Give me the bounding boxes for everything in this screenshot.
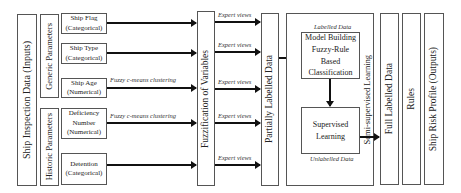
param-type: (Categorical) [66, 24, 103, 33]
full-labelled-label: Full Labelled Data [385, 63, 395, 134]
param-type: (Categorical) [66, 54, 103, 63]
expert-label-1: Expert views [218, 11, 251, 18]
generic-parameters-box: Generic Parameters [40, 14, 59, 98]
ship-inspection-data-box: Ship Inspection Data (Inputs) [17, 14, 37, 186]
partially-labelled-label: Partially Labelled Data [265, 55, 275, 143]
param-ship-flag: Ship Flag (Categorical) [61, 13, 107, 34]
param-name: Ship Flag [70, 14, 97, 23]
arrow-detention [107, 164, 196, 166]
ship-risk-profile-label: Ship Risk Profile (Outputs) [429, 47, 439, 151]
expert-label-5: Expert views [218, 154, 251, 161]
param-ship-type: Ship Type (Categorical) [61, 43, 107, 64]
expert-label-4: Expert views [218, 112, 251, 119]
generic-parameters-label: Generic Parameters [45, 23, 54, 90]
historic-parameters-label: Historic Parameters [45, 113, 54, 180]
supervised-line-2: Learning [316, 131, 345, 143]
arrow-model-to-supervised [329, 79, 331, 106]
ship-risk-profile-box: Ship Risk Profile (Outputs) [424, 13, 444, 185]
arrow-deficiency [107, 122, 196, 124]
labelled-data-caption: Labelled Data [314, 23, 351, 30]
fuzzification-label: Fuzzification of Variables [201, 50, 211, 148]
arrow-ship-age [107, 87, 196, 89]
param-deficiency-number: Deficiency Number (Numerical) [61, 108, 107, 139]
supervised-learning-box: Supervised Learning [301, 107, 360, 154]
model-building-box: Model Building Fuzzy-Rule Based Classifi… [301, 32, 360, 79]
rules-label: Rules [407, 88, 417, 110]
param-name: Ship Type [70, 44, 98, 53]
historic-parameters-box: Historic Parameters [40, 108, 59, 186]
arrow-ship-flag [107, 22, 196, 24]
unlabelled-data-caption: Unlabelled Data [310, 155, 354, 162]
model-line-2: Fuzzy-Rule [312, 44, 349, 56]
expert-label-2: Expert views [218, 41, 251, 48]
param-type: (Numerical) [67, 88, 101, 97]
semi-supervised-label: Semi-supervised Learning [363, 55, 372, 144]
ship-inspection-data-label: Ship Inspection Data (Inputs) [22, 41, 32, 159]
arrow-expert-5 [215, 164, 260, 166]
arrow-expert-3 [215, 88, 260, 90]
arrow-to-full-labelled [360, 136, 379, 138]
param-type: (Categorical) [66, 169, 103, 178]
arrow-expert-4 [215, 122, 260, 124]
partially-labelled-box: Partially Labelled Data [261, 13, 279, 186]
fcm-label-deficiency: Fuzzy c-means clustering [110, 112, 176, 119]
arrow-expert-1 [215, 21, 260, 23]
supervised-line-1: Supervised [313, 119, 349, 131]
fuzzification-box: Fuzzification of Variables [197, 11, 215, 186]
param-name-2: Number [73, 119, 96, 128]
arrow-ship-type [107, 52, 196, 54]
full-labelled-box: Full Labelled Data [380, 13, 399, 185]
model-line-1: Model Building [305, 32, 356, 44]
param-name: Ship Age [71, 79, 97, 88]
fcm-label-ship-age: Fuzzy c-means clustering [110, 76, 176, 83]
param-detention: Detention (Categorical) [61, 153, 107, 185]
param-name: Deficiency [69, 109, 100, 118]
model-line-3: Based [321, 56, 341, 68]
param-ship-age: Ship Age (Numerical) [61, 78, 107, 98]
expert-label-3: Expert views [218, 78, 251, 85]
model-line-4: Classification [309, 67, 353, 79]
param-type: (Numerical) [67, 128, 101, 137]
arrow-expert-2 [215, 51, 260, 53]
semi-supervised-strip: Semi-supervised Learning [361, 14, 373, 185]
param-name: Detention [70, 160, 98, 169]
rules-box: Rules [402, 13, 421, 185]
